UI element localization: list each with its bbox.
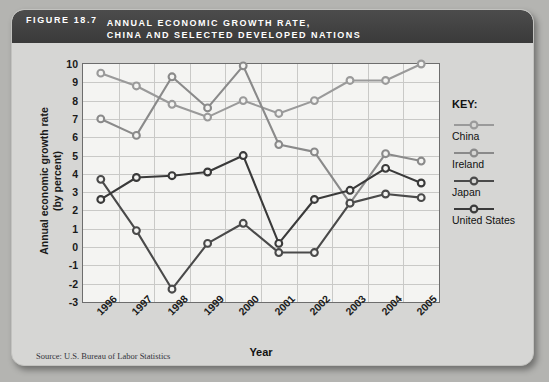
y-tick-7: 7 <box>72 113 78 125</box>
source-note: Source: U.S. Bureau of Labor Statistics <box>36 351 170 361</box>
figure-title-bar: FIGURE 18.7 ANNUAL ECONOMIC GROWTH RATE,… <box>12 10 533 43</box>
data-point <box>133 83 140 90</box>
legend-swatch-icon <box>452 173 534 185</box>
data-point <box>311 249 318 256</box>
data-point <box>204 169 211 176</box>
data-point <box>382 191 389 198</box>
data-point <box>97 70 104 77</box>
y-tick--1: -1 <box>69 259 78 271</box>
data-point <box>97 116 104 123</box>
series-line-japan <box>101 179 421 289</box>
y-tick-5: 5 <box>72 150 78 162</box>
data-point <box>418 158 425 165</box>
y-tick-1: 1 <box>72 223 78 235</box>
plot-box <box>82 63 440 303</box>
data-point <box>418 180 425 187</box>
figure-number: FIGURE 18.7 <box>26 15 98 25</box>
data-point <box>97 196 104 203</box>
data-point <box>347 200 354 207</box>
data-point <box>240 152 247 159</box>
y-tick-9: 9 <box>72 76 78 88</box>
legend-swatch-icon <box>452 117 534 129</box>
x-axis-tick-labels: 1996199719981999200020012002200320042005 <box>82 305 440 345</box>
legend-title: KEY: <box>452 98 534 110</box>
y-tick-8: 8 <box>72 95 78 107</box>
data-point <box>311 196 318 203</box>
data-point <box>382 77 389 84</box>
legend-swatch-icon <box>452 201 534 213</box>
data-point <box>204 240 211 247</box>
data-point <box>204 105 211 112</box>
chart-area: Annual economic growth rate (by percent)… <box>12 43 533 365</box>
figure-screenshot: FIGURE 18.7 ANNUAL ECONOMIC GROWTH RATE,… <box>0 0 549 382</box>
legend-item-ireland[interactable]: Ireland <box>452 145 534 171</box>
y-axis-tick-labels: 109876543210-1-2-3 <box>56 63 78 303</box>
y-tick-3: 3 <box>72 186 78 198</box>
legend-item-united-states[interactable]: United States <box>452 201 534 227</box>
legend-label: Ireland <box>452 158 534 171</box>
data-point <box>311 148 318 155</box>
data-point <box>204 114 211 121</box>
data-point <box>133 227 140 234</box>
y-tick--3: -3 <box>69 296 78 308</box>
series-lines <box>83 64 439 302</box>
data-point <box>275 110 282 117</box>
data-point <box>240 97 247 104</box>
data-point <box>133 174 140 181</box>
y-tick-2: 2 <box>72 204 78 216</box>
legend-swatch-icon <box>452 145 534 157</box>
data-point <box>275 249 282 256</box>
series-line-china <box>101 64 421 117</box>
legend-label: China <box>452 130 534 143</box>
data-point <box>97 176 104 183</box>
data-point <box>240 62 247 69</box>
data-point <box>382 165 389 172</box>
data-point <box>311 97 318 104</box>
y-tick-0: 0 <box>72 241 78 253</box>
series-line-ireland <box>101 66 421 203</box>
data-point <box>347 187 354 194</box>
legend-item-japan[interactable]: Japan <box>452 173 534 199</box>
legend-items: ChinaIrelandJapanUnited States <box>452 117 534 227</box>
legend-item-china[interactable]: China <box>452 117 534 143</box>
series-line-united-states <box>101 156 421 244</box>
data-point <box>169 101 176 108</box>
data-point <box>275 141 282 148</box>
data-point <box>275 240 282 247</box>
y-tick--2: -2 <box>69 278 78 290</box>
data-point <box>169 286 176 293</box>
data-point <box>418 61 425 68</box>
figure-card: FIGURE 18.7 ANNUAL ECONOMIC GROWTH RATE,… <box>11 9 534 366</box>
data-point <box>133 132 140 139</box>
data-point <box>418 194 425 201</box>
legend-label: United States <box>452 214 534 227</box>
data-point <box>240 220 247 227</box>
y-tick-10: 10 <box>66 58 78 70</box>
legend-label: Japan <box>452 186 534 199</box>
data-point <box>382 150 389 157</box>
y-tick-6: 6 <box>72 131 78 143</box>
data-point <box>347 77 354 84</box>
data-point <box>169 172 176 179</box>
figure-title: ANNUAL ECONOMIC GROWTH RATE, CHINA AND S… <box>107 17 362 41</box>
legend: KEY: ChinaIrelandJapanUnited States <box>452 98 534 229</box>
y-tick-4: 4 <box>72 168 78 180</box>
data-point <box>169 73 176 80</box>
